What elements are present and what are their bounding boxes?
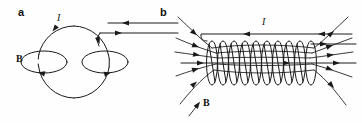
panel-b-lead-wire-secondary [311, 41, 356, 46]
panel-b-letter: b [160, 6, 167, 18]
figure-canvas: a I [0, 0, 362, 123]
panel-b-axis-line [181, 60, 356, 65]
panel-a-current-loop [38, 26, 109, 98]
panel-a-letter: a [18, 6, 25, 18]
panel-b-field-label: B [203, 97, 210, 108]
panel-b-current-label: I [261, 16, 266, 27]
panel-a-field-ellipse-right [82, 51, 128, 77]
panel-a-field-label: B [16, 53, 23, 64]
panel-a-current-label: I [56, 12, 61, 23]
panel-a-lead-wire-top [108, 20, 178, 25]
panel-a-lead-wire-bottom [100, 30, 178, 35]
panel-b-field-lines: B [175, 17, 353, 116]
panel-a: a I [16, 6, 178, 98]
panel-b: b B [160, 6, 356, 116]
physics-figure: a I [0, 0, 362, 123]
panel-a-field-ellipse-left [21, 51, 67, 76]
